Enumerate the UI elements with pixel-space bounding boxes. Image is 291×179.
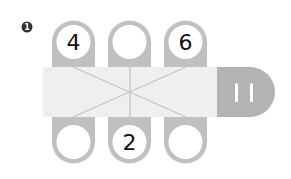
svg-text:1: 1	[24, 23, 30, 32]
bottom-seat-2: 2	[108, 117, 151, 164]
bottom-seat-1	[52, 117, 95, 164]
seating-diagram: 1 4 6 2	[0, 0, 291, 179]
svg-text:2: 2	[123, 130, 137, 155]
end-bar-icon	[250, 83, 253, 102]
top-seat-2	[108, 21, 151, 68]
bottom-seat-3	[164, 117, 207, 164]
top-seat-1: 4	[52, 21, 95, 68]
end-bar-icon	[235, 83, 238, 102]
problem-number-badge: 1	[22, 22, 33, 33]
table-end-block	[217, 67, 275, 117]
svg-text:4: 4	[67, 30, 81, 55]
svg-text:6: 6	[179, 30, 193, 55]
top-seat-3: 6	[164, 21, 207, 68]
